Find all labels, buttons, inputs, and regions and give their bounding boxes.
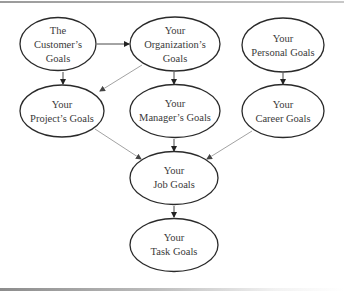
node-project-line2: Project’s Goals	[30, 113, 94, 124]
node-career-goals: Your Career Goals	[242, 85, 324, 138]
node-personal-goals: Your Personal Goals	[242, 18, 324, 72]
node-manager-line1: Your	[165, 98, 186, 109]
node-job-line2: Job Goals	[153, 179, 195, 190]
edge-career-to-job	[207, 131, 252, 159]
edge-organization-to-project	[100, 65, 142, 91]
node-organization-line3: Goals	[163, 53, 188, 64]
node-customer-line1: The	[50, 25, 67, 36]
node-organization-line1: Your	[165, 25, 186, 36]
node-job-goals: Your Job Goals	[130, 152, 218, 205]
node-task-line2: Task Goals	[151, 246, 198, 257]
node-project-line1: Your	[52, 99, 73, 110]
node-manager-line2: Manager’s Goals	[139, 112, 211, 123]
node-personal-line2: Personal Goals	[251, 47, 314, 58]
node-career-line2: Career Goals	[255, 113, 310, 124]
node-task-line1: Your	[164, 232, 185, 243]
node-customer-line2: Customer’s	[34, 39, 82, 50]
node-manager-goals: Your Manager’s Goals	[130, 85, 220, 138]
node-project-goals: Your Project’s Goals	[20, 85, 104, 137]
node-career-line1: Your	[273, 99, 294, 110]
node-job-line1: Your	[164, 165, 185, 176]
goal-hierarchy-diagram: The Customer’s Goals Your Organization’s…	[0, 0, 344, 291]
node-task-goals: Your Task Goals	[130, 219, 218, 272]
node-personal-line1: Your	[273, 33, 294, 44]
node-organization-goals: Your Organization’s Goals	[130, 17, 220, 71]
node-customer-goals: The Customer’s Goals	[20, 18, 96, 71]
node-customer-line3: Goals	[46, 53, 71, 64]
edge-project-to-job	[95, 129, 141, 159]
node-organization-line2: Organization’s	[144, 39, 206, 50]
